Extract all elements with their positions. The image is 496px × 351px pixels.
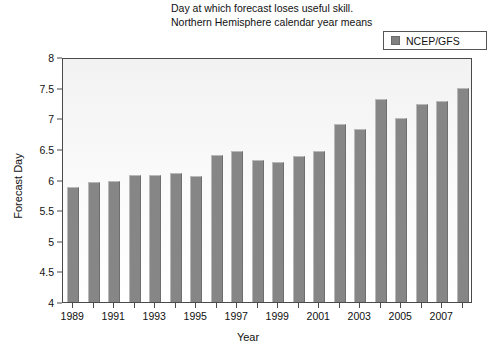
bar (88, 182, 100, 302)
bar (211, 155, 223, 302)
x-tick-mark (400, 303, 401, 308)
x-tick-mark (154, 303, 155, 308)
x-tick-mark (72, 303, 73, 308)
chart-title-line-1: Day at which forecast loses useful skill… (171, 2, 471, 16)
x-tick-mark (134, 303, 135, 308)
x-tick-mark (318, 303, 319, 308)
x-tick-label: 1989 (61, 310, 84, 322)
x-tick-label: 1991 (102, 310, 125, 322)
chart-title-line-2: Northern Hemisphere calendar year means (171, 16, 471, 30)
y-tick-label: 6 (0, 175, 62, 187)
bar (293, 156, 305, 302)
chart-title: Day at which forecast loses useful skill… (171, 2, 471, 29)
chart-legend: NCEP/GFS (383, 31, 487, 50)
x-tick-label: 2005 (389, 310, 412, 322)
bar (149, 175, 161, 302)
legend-swatch-ncep-gfs (391, 36, 400, 45)
bar (170, 173, 182, 302)
bar (272, 162, 284, 302)
bar (108, 181, 120, 302)
legend-label-ncep-gfs: NCEP/GFS (406, 35, 460, 47)
x-axis-title: Year (0, 331, 496, 343)
x-tick-mark (175, 303, 176, 308)
x-tick-label: 1995 (184, 310, 207, 322)
x-tick-label: 2003 (348, 310, 371, 322)
x-tick-mark (380, 303, 381, 308)
x-tick-label: 1999 (266, 310, 289, 322)
bar (436, 101, 448, 302)
chart-root: Day at which forecast loses useful skill… (0, 0, 496, 351)
x-tick-mark (421, 303, 422, 308)
bar (457, 88, 469, 302)
bar (354, 129, 366, 302)
bar-series-ncep-gfs (63, 59, 471, 302)
bar (395, 118, 407, 302)
bar (334, 124, 346, 302)
x-tick-mark (93, 303, 94, 308)
x-tick-mark (298, 303, 299, 308)
bar (313, 151, 325, 302)
y-tick-label: 8 (0, 52, 62, 64)
x-tick-mark (195, 303, 196, 308)
x-tick-mark (339, 303, 340, 308)
x-tick-label: 2007 (430, 310, 453, 322)
x-tick-mark (257, 303, 258, 308)
y-tick-label: 4 (0, 297, 62, 309)
y-tick-label: 6.5 (0, 144, 62, 156)
x-tick-mark (462, 303, 463, 308)
bar (190, 176, 202, 302)
x-tick-mark (277, 303, 278, 308)
x-tick-mark (113, 303, 114, 308)
bar (416, 104, 428, 302)
x-tick-mark (441, 303, 442, 308)
y-tick-label: 7.5 (0, 83, 62, 95)
bar (67, 187, 79, 302)
y-tick-label: 5 (0, 236, 62, 248)
x-tick-mark (216, 303, 217, 308)
bar (231, 151, 243, 302)
y-tick-label: 7 (0, 113, 62, 125)
bar (129, 175, 141, 302)
x-tick-mark (236, 303, 237, 308)
bar (375, 99, 387, 302)
y-tick-label: 4.5 (0, 266, 62, 278)
y-tick-label: 5.5 (0, 205, 62, 217)
x-tick-mark (359, 303, 360, 308)
x-tick-label: 1993 (143, 310, 166, 322)
x-tick-label: 2001 (307, 310, 330, 322)
bar (252, 160, 264, 302)
x-tick-label: 1997 (225, 310, 248, 322)
plot-area (62, 58, 472, 303)
